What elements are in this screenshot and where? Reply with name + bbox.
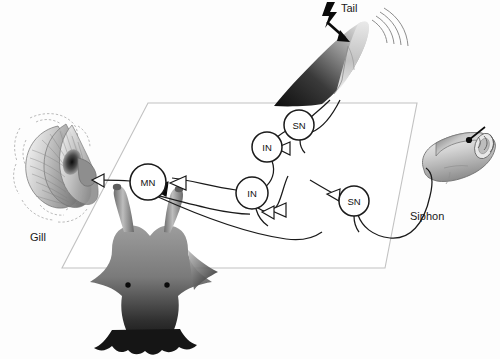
neuron-label: MN <box>141 177 156 188</box>
neuron-label: IN <box>262 142 272 153</box>
gill-label: Gill <box>30 231 46 243</box>
neuron-sensory-neuron-siphon[interactable]: SN <box>339 186 369 216</box>
neuron-label: SN <box>347 196 360 207</box>
tail-label: Tail <box>341 2 358 14</box>
neuron-sensory-neuron-tail[interactable]: SN <box>284 110 314 140</box>
circuit-diagram: Tail Siphon <box>0 0 500 359</box>
siphon-label: Siphon <box>410 210 444 222</box>
neuron-interneuron-lower[interactable]: IN <box>236 177 268 209</box>
neuron-interneuron-upper[interactable]: IN <box>252 132 282 162</box>
figure-canvas: Tail Siphon <box>0 0 500 359</box>
neuron-label: IN <box>247 188 257 199</box>
neuron-label: SN <box>292 120 305 131</box>
neuron-motor-neuron[interactable]: MN <box>130 164 166 200</box>
